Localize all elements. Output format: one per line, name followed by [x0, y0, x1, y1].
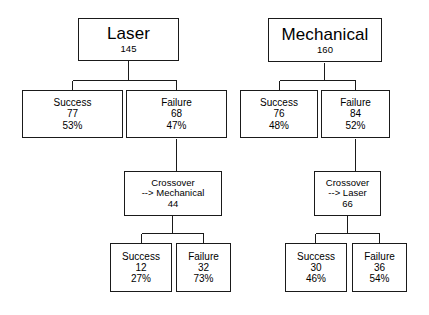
node-laser-root-count: 145	[121, 44, 137, 55]
node-mechanical-root[interactable]: Mechanical 160	[268, 18, 382, 62]
node-laser-root[interactable]: Laser 145	[78, 18, 179, 61]
node-laser-crossover-failure-count: 32	[198, 262, 209, 273]
node-mechanical-success-count: 76	[273, 108, 284, 119]
node-mechanical-root-count: 160	[317, 45, 333, 56]
node-laser-crossover-success-label: Success	[122, 251, 160, 262]
node-laser-failure[interactable]: Failure 68 47%	[126, 90, 227, 138]
node-mechanical-success[interactable]: Success 76 48%	[240, 90, 318, 138]
node-mechanical-crossover-failure-percent: 54%	[369, 273, 389, 284]
node-laser-crossover-success-percent: 27%	[131, 273, 151, 284]
node-mechanical-success-percent: 48%	[269, 120, 289, 131]
node-laser-success[interactable]: Success 77 53%	[22, 90, 123, 138]
node-laser-crossover[interactable]: Crossover --> Mechanical 44	[124, 171, 222, 216]
flowchart-canvas: Laser 145 Success 77 53% Failure 68 47% …	[0, 0, 429, 315]
node-laser-failure-label: Failure	[161, 97, 192, 108]
node-laser-crossover-success[interactable]: Success 12 27%	[110, 243, 172, 292]
node-mechanical-crossover-success[interactable]: Success 30 46%	[285, 243, 347, 292]
node-laser-crossover-failure[interactable]: Failure 32 73%	[176, 243, 231, 292]
node-mechanical-crossover-success-count: 30	[310, 262, 321, 273]
node-mechanical-root-label: Mechanical	[282, 25, 369, 44]
node-mechanical-failure[interactable]: Failure 84 52%	[321, 90, 390, 138]
node-mechanical-success-label: Success	[260, 97, 298, 108]
node-mechanical-failure-count: 84	[350, 108, 361, 119]
node-mechanical-crossover-failure[interactable]: Failure 36 54%	[352, 243, 407, 292]
node-laser-success-label: Success	[54, 97, 92, 108]
node-mechanical-crossover[interactable]: Crossover --> Laser 66	[314, 171, 381, 216]
node-laser-success-count: 77	[67, 108, 78, 119]
node-mechanical-crossover-success-percent: 46%	[306, 273, 326, 284]
node-laser-success-percent: 53%	[62, 120, 82, 131]
node-laser-crossover-failure-label: Failure	[188, 251, 219, 262]
node-mechanical-crossover-failure-count: 36	[374, 262, 385, 273]
node-mechanical-crossover-success-label: Success	[297, 251, 335, 262]
node-mechanical-crossover-failure-label: Failure	[364, 251, 395, 262]
node-laser-failure-count: 68	[171, 108, 182, 119]
node-mechanical-crossover-count: 66	[342, 199, 353, 210]
node-laser-crossover-success-count: 12	[135, 262, 146, 273]
node-laser-crossover-count: 44	[168, 199, 179, 210]
node-laser-root-label: Laser	[107, 24, 150, 43]
node-laser-failure-percent: 47%	[166, 120, 186, 131]
node-mechanical-failure-label: Failure	[340, 97, 371, 108]
node-laser-crossover-failure-percent: 73%	[193, 273, 213, 284]
node-mechanical-failure-percent: 52%	[345, 120, 365, 131]
